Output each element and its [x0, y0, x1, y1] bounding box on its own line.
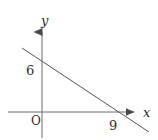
coordinate-plane-figure: y x 6 9 O [0, 0, 158, 140]
y-axis-label: y [41, 14, 48, 27]
plotted-line [22, 48, 149, 132]
y-intercept-tick-label: 6 [26, 64, 34, 77]
origin-label: O [31, 115, 41, 127]
x-axis-label: x [143, 106, 150, 119]
x-intercept-tick-label: 9 [109, 119, 117, 132]
figure-canvas [0, 0, 158, 140]
